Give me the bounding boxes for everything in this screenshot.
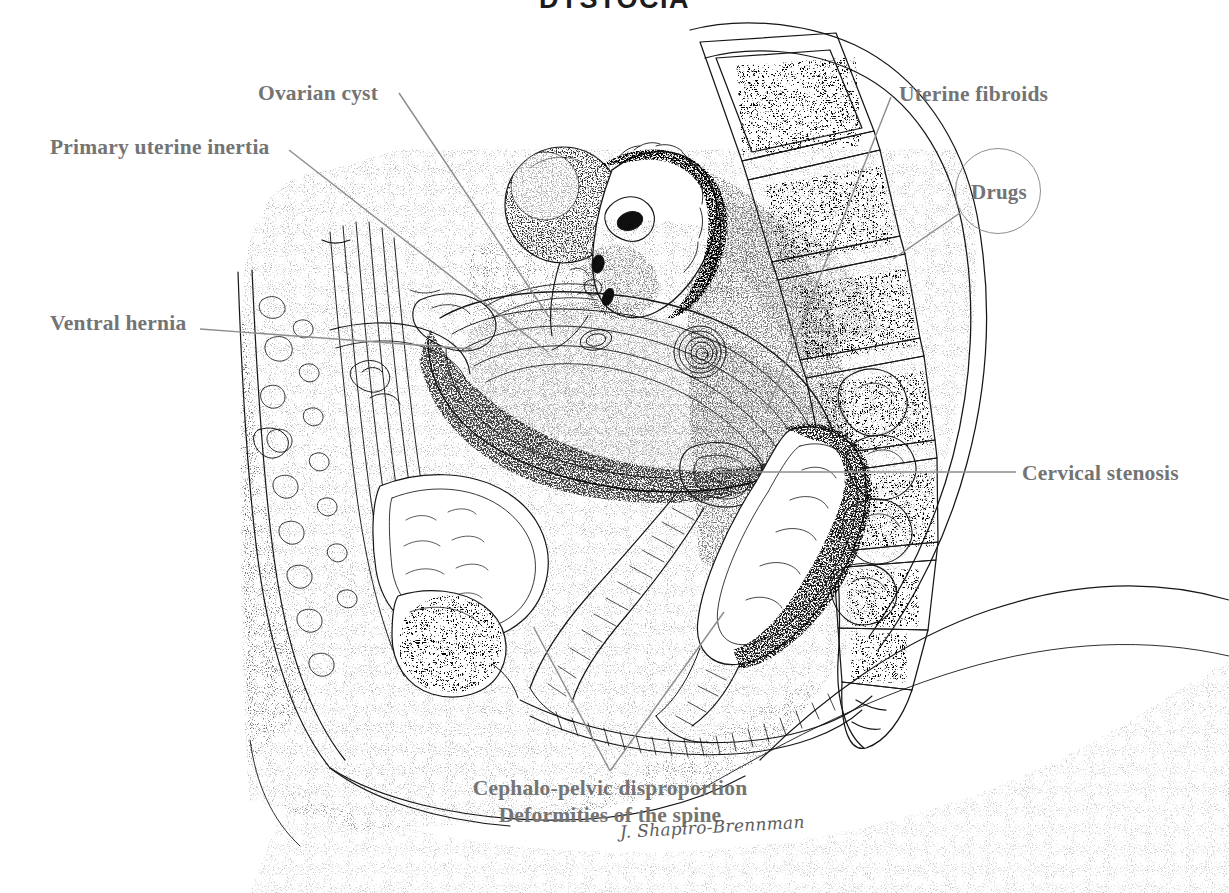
anatomical-illustration	[0, 0, 1229, 893]
gravid-uterus	[413, 284, 841, 492]
page-title: DYSTOCIA	[0, 0, 1229, 13]
label-ventral-hernia: Ventral hernia	[50, 311, 186, 336]
label-uterine-fibroids: Uterine fibroids	[899, 82, 1048, 107]
leader-spine-right	[610, 612, 724, 771]
label-drugs: Drugs	[955, 148, 1043, 236]
label-cervical-stenosis: Cervical stenosis	[1022, 461, 1179, 486]
label-ovarian-cyst: Ovarian cyst	[258, 81, 378, 106]
pubic-symphysis	[392, 591, 518, 698]
urinary-bladder	[373, 475, 548, 643]
small-bowel	[831, 369, 916, 625]
label-primary-uterine-inertia: Primary uterine inertia	[50, 135, 270, 160]
illustration-page: DYSTOCIA	[0, 0, 1229, 893]
leader-ovarian-cyst	[399, 93, 549, 317]
ovarian-cyst-structure	[505, 147, 621, 263]
cervix-vagina	[530, 443, 764, 722]
pelvic-floor	[520, 694, 872, 757]
leader-drugs	[893, 213, 960, 259]
leader-lines	[200, 93, 1016, 771]
uterine-fibroid	[674, 326, 726, 378]
fetal-head	[550, 143, 726, 350]
leader-ventral-hernia	[200, 329, 472, 349]
leader-uterine-fibroids	[766, 97, 891, 413]
label-cephalo-pelvic-disproportion: Cephalo-pelvic disproportion	[430, 776, 790, 801]
rectum	[656, 425, 871, 743]
leader-primary-inertia	[289, 150, 548, 352]
leader-cephalo-pelvic-left	[534, 628, 610, 771]
